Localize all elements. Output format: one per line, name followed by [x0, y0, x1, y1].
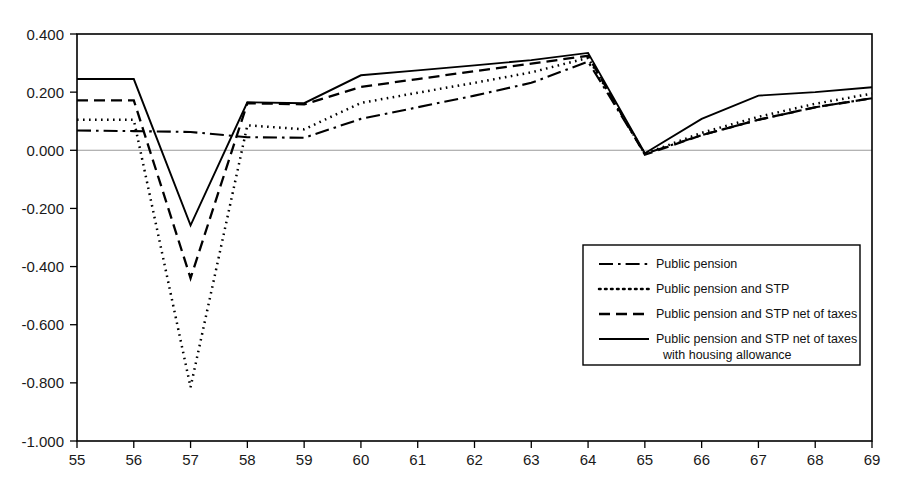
x-axis-tick-label: 59 — [296, 451, 313, 468]
x-axis-tick-label: 57 — [182, 451, 199, 468]
pension-replacement-line-chart: 0.4000.2000.000-0.200-0.400-0.600-0.800-… — [0, 0, 907, 494]
x-axis-tick-label: 65 — [637, 451, 654, 468]
chart-container: 0.4000.2000.000-0.200-0.400-0.600-0.800-… — [0, 0, 907, 494]
legend-label-continuation: with housing allowance — [662, 348, 792, 362]
x-axis-tick-label: 60 — [353, 451, 370, 468]
x-axis-tick-label: 67 — [750, 451, 767, 468]
x-axis-tick-label: 55 — [69, 451, 86, 468]
x-axis-tick-label: 64 — [580, 451, 597, 468]
x-axis-tick-label: 69 — [864, 451, 881, 468]
x-axis-tick-label: 62 — [466, 451, 483, 468]
y-axis-tick-label: -1.000 — [21, 433, 64, 450]
x-axis-tick-label: 61 — [409, 451, 426, 468]
y-axis-tick-label: -0.600 — [21, 316, 64, 333]
x-axis-tick-label: 56 — [125, 451, 142, 468]
legend-label: Public pension — [656, 257, 737, 271]
y-axis-tick-label: 0.200 — [26, 84, 64, 101]
x-axis-tick-label: 63 — [523, 451, 540, 468]
legend-label: Public pension and STP net of taxes — [656, 332, 857, 346]
x-axis-tick-label: 66 — [693, 451, 710, 468]
y-axis-tick-label: -0.800 — [21, 374, 64, 391]
x-axis-tick-label: 58 — [239, 451, 256, 468]
x-axis-tick-group: 555657585960616263646566676869 — [69, 441, 881, 468]
y-axis-tick-label: -0.200 — [21, 200, 64, 217]
legend-label: Public pension and STP net of taxes — [656, 307, 857, 321]
x-axis-tick-label: 68 — [807, 451, 824, 468]
legend-label: Public pension and STP — [656, 282, 789, 296]
y-axis-tick-label: 0.400 — [26, 26, 64, 43]
y-axis-tick-label: 0.000 — [26, 142, 64, 159]
chart-legend: Public pensionPublic pension and STPPubl… — [583, 245, 860, 365]
y-axis-tick-label: -0.400 — [21, 258, 64, 275]
